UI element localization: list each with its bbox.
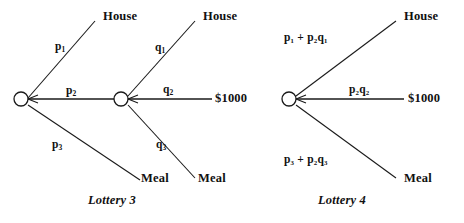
lottery4-root-node xyxy=(282,92,296,106)
lottery3-root-node xyxy=(14,92,28,106)
decision-tree-figure: p1 House p2 p3 Meal q1 House q2 $1000 q3… xyxy=(0,0,464,223)
lottery4-outcome-meal: Meal xyxy=(404,172,432,185)
lottery3-caption: Lottery 3 xyxy=(88,194,136,207)
lottery3-outcome-money-end: $1000 xyxy=(215,92,247,105)
lottery3-prob-p1: p1 xyxy=(55,41,66,53)
lottery4-prob-bottom: p₃ + p₂q₃ xyxy=(284,154,328,166)
lottery4-prob-top: p₁ + p₂q₁ xyxy=(284,32,328,44)
lottery3-prob-q1: q1 xyxy=(155,42,166,54)
lottery3-outcome-meal-end: Meal xyxy=(198,172,226,185)
lottery3-prob-q3: q3 xyxy=(156,139,167,151)
lottery3-outcome-meal-bottom: Meal xyxy=(141,172,169,185)
lottery3-prob-p2: p2 xyxy=(66,85,77,97)
lottery3-chance-node xyxy=(114,92,128,106)
lottery3-sub-branch-top-line xyxy=(128,21,195,96)
lottery4-prob-middle: p₂q₂ xyxy=(349,84,370,96)
lottery4-outcome-house: House xyxy=(404,10,438,23)
lottery4-outcome-money: $1000 xyxy=(408,92,440,105)
lottery3-branch-top-line xyxy=(28,21,95,98)
lottery3-prob-q2: q2 xyxy=(163,84,174,96)
tree-lines-canvas xyxy=(0,0,464,223)
lottery3-outcome-house-end: House xyxy=(203,10,237,23)
lottery3-outcome-house-top: House xyxy=(103,10,137,23)
lottery4-branch-bottom-line xyxy=(296,105,396,178)
lottery4-caption: Lottery 4 xyxy=(318,194,366,207)
lottery3-branch-bottom-line xyxy=(28,105,140,180)
lottery3-prob-p3: p3 xyxy=(52,139,63,151)
